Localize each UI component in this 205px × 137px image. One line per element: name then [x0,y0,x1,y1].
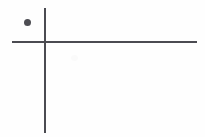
data-point-marker [24,19,31,26]
paper-smudge-artifact [71,55,78,61]
horizontal-axis-line [12,41,197,43]
figure-canvas [0,0,205,137]
vertical-axis-line [44,8,46,133]
